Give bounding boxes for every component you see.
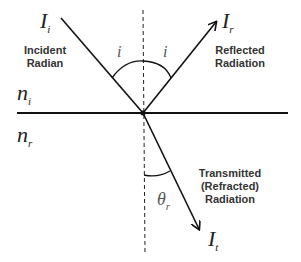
- angle-of-incidence-label: i: [117, 43, 121, 61]
- reflected-intensity-label: Ir: [222, 8, 234, 34]
- angle-arc-refracted: [144, 171, 170, 176]
- reflection-refraction-diagram: [0, 0, 301, 262]
- angle-of-reflection-label: i: [163, 43, 167, 61]
- incident-ray: [61, 18, 143, 113]
- incident-intensity-label: Ii: [40, 8, 50, 34]
- normal-line: [143, 10, 145, 252]
- transmitted-radiation-label: Transmitted (Refracted) Radiation: [190, 167, 270, 206]
- angle-of-refraction-label: θr: [157, 189, 170, 210]
- reflected-radiation-label: Reflected Radiation: [205, 44, 275, 70]
- transmitted-intensity-label: It: [208, 226, 218, 252]
- incident-radiation-label: Incident Radian: [20, 44, 70, 70]
- incidence-point: [141, 111, 146, 116]
- upper-medium-index-label: ni: [17, 80, 31, 106]
- angle-arc-incident-reflected: [112, 61, 171, 78]
- lower-medium-index-label: nr: [17, 122, 32, 148]
